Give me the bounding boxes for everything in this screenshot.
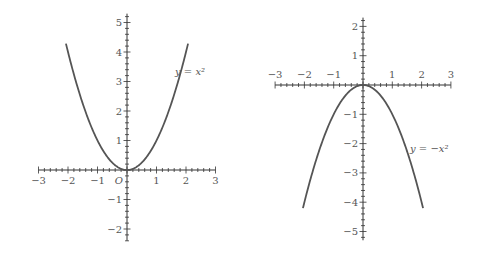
x-tick-label: −2 (61, 175, 76, 186)
x-tick-label: −3 (31, 175, 46, 186)
x-tick-label: −2 (297, 69, 312, 80)
y-tick-label: −1 (343, 109, 358, 120)
x-tick-label: 1 (153, 175, 159, 186)
plot-y-equals-neg-x-squared: −3−2−1123−5−4−3−2−112y = −x² (268, 18, 454, 241)
y-tick-label: 5 (116, 17, 122, 28)
y-tick-label: −2 (343, 138, 358, 149)
y-tick-label: −1 (107, 194, 122, 205)
x-tick-label: 2 (183, 175, 189, 186)
parabola-charts: −3−2−1123−2−112345Oy = x² −3−2−1123−5−4−… (0, 0, 477, 253)
y-tick-label: 2 (352, 21, 358, 32)
x-tick-label: −3 (268, 69, 283, 80)
x-tick-label: 1 (389, 69, 395, 80)
y-tick-label: 2 (116, 106, 122, 117)
y-tick-label: −2 (107, 224, 122, 235)
x-tick-label: −1 (326, 69, 341, 80)
x-tick-label: 3 (448, 69, 454, 80)
y-tick-label: 1 (116, 135, 122, 146)
y-tick-label: −4 (343, 197, 358, 208)
y-tick-label: −5 (343, 226, 358, 237)
function-label: y = x² (174, 66, 205, 77)
x-tick-label: 3 (212, 175, 218, 186)
plot-y-equals-x-squared: −3−2−1123−2−112345Oy = x² (31, 14, 219, 241)
y-tick-label: 3 (116, 76, 122, 87)
origin-label: O (115, 175, 123, 186)
x-tick-label: −1 (90, 175, 105, 186)
x-tick-label: 2 (418, 69, 424, 80)
y-tick-label: 1 (352, 50, 358, 61)
y-tick-label: −3 (343, 167, 358, 178)
y-tick-label: 4 (116, 47, 122, 58)
function-label: y = −x² (409, 143, 448, 154)
